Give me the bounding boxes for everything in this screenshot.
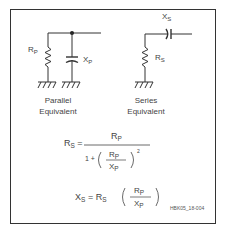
caption-series: Series Equivalent [125, 95, 167, 117]
eq1-denom-prefix: 1 + [85, 155, 95, 162]
eq2-lhs: XS = RS [75, 192, 106, 203]
eq1-inner-denominator: XP [109, 162, 119, 172]
eq1-exponent: 2 [137, 148, 140, 154]
resistor-rs-icon [142, 34, 148, 82]
caption-line: Equivalent [125, 106, 167, 117]
caption-line: Series [125, 95, 167, 106]
label-rp: RP [28, 45, 38, 55]
label-rs: RS [155, 53, 165, 63]
caption-line: Equivalent [38, 106, 78, 117]
ground-icon [38, 82, 56, 88]
label-xp: XP [83, 55, 92, 65]
capacitor-xp-icon [66, 33, 78, 82]
eq1-inner-numerator: RP [109, 150, 119, 160]
eq1-lhs: RS = [64, 138, 83, 149]
caption-parallel: Parallel Equivalent [38, 95, 78, 117]
eq2-inner-denominator: XP [134, 199, 144, 209]
eq1-numerator: RP [111, 131, 122, 142]
label-xs: XS [162, 12, 171, 22]
eq2-inner-numerator: RP [134, 186, 144, 196]
circuit-drawing [0, 0, 226, 235]
figure-id: HBK05_18-004 [170, 205, 204, 211]
ground-icon [62, 82, 80, 88]
caption-line: Parallel [38, 95, 78, 106]
resistor-rp-icon [45, 33, 51, 82]
ground-icon [135, 82, 153, 88]
